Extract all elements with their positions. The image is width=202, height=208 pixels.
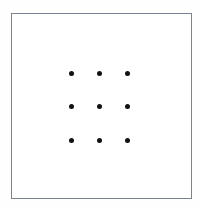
- nine-dot-grid: [12, 14, 191, 198]
- figure-canvas: [0, 0, 202, 208]
- grid-dot: [125, 71, 130, 76]
- outer-rectangle-border: [11, 13, 192, 199]
- grid-dot: [97, 104, 102, 109]
- grid-dot: [125, 104, 130, 109]
- grid-dot: [125, 138, 130, 143]
- grid-dot: [69, 104, 74, 109]
- grid-dot: [97, 71, 102, 76]
- grid-dot: [69, 138, 74, 143]
- grid-dot: [69, 71, 74, 76]
- grid-dot: [97, 138, 102, 143]
